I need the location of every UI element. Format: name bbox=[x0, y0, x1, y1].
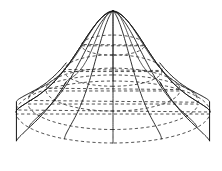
figure-root bbox=[0, 0, 222, 171]
surface-of-revolution-figure bbox=[0, 0, 222, 171]
figure-background bbox=[0, 0, 222, 171]
